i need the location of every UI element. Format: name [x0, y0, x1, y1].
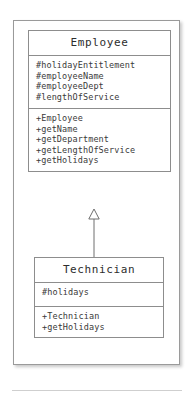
generalization-arrow-icon	[86, 208, 102, 258]
class-box-technician[interactable]: Technician #holidays +Technician +getHol…	[34, 257, 164, 338]
class-name-technician: Technician	[35, 258, 163, 282]
operation-item: +getHolidays	[36, 155, 163, 166]
operation-item: +getDepartment	[36, 134, 163, 145]
operation-item: +Technician	[42, 311, 156, 322]
attributes-compartment-technician: #holidays	[35, 282, 163, 306]
operation-item: +getHolidays	[42, 322, 156, 333]
class-box-employee[interactable]: Employee #holidayEntitlement #employeeNa…	[28, 30, 171, 172]
attribute-item: #holidayEntitlement	[36, 60, 163, 71]
operation-list-technician: +Technician +getHolidays	[42, 311, 156, 332]
attribute-item: #employeeDept	[36, 81, 163, 92]
attribute-list-technician: #holidays	[42, 287, 156, 298]
operations-compartment-employee: +Employee +getName +getDepartment +getLe…	[29, 108, 170, 171]
class-name-employee: Employee	[29, 31, 170, 55]
generalization-connector-technician-to-employee	[86, 208, 102, 258]
operation-item: +Employee	[36, 113, 163, 124]
attributes-compartment-employee: #holidayEntitlement #employeeName #emplo…	[29, 55, 170, 108]
operation-item: +getLengthOfService	[36, 145, 163, 156]
diagram-frame: Employee #holidayEntitlement #employeeNa…	[13, 20, 180, 365]
hollow-triangle-arrowhead	[89, 209, 99, 219]
bottom-divider	[12, 390, 182, 391]
operation-item: +getName	[36, 124, 163, 135]
operations-compartment-technician: +Technician +getHolidays	[35, 306, 163, 337]
operation-list-employee: +Employee +getName +getDepartment +getLe…	[36, 113, 163, 166]
attribute-item: #lengthOfService	[36, 92, 163, 103]
attribute-item: #employeeName	[36, 71, 163, 82]
attribute-item: #holidays	[42, 287, 156, 298]
attribute-list-employee: #holidayEntitlement #employeeName #emplo…	[36, 60, 163, 102]
